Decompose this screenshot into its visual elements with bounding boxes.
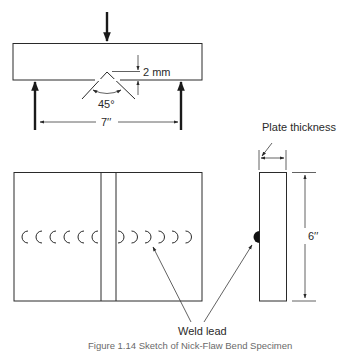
weld-ripple-right <box>145 231 151 243</box>
plate-thickness-label: Plate thickness <box>262 121 336 133</box>
weld-ripple-right <box>186 231 192 243</box>
weld-ripple-left <box>36 231 42 243</box>
weld-ripple-left <box>50 231 56 243</box>
weld-ripple-marks <box>22 231 192 243</box>
notch <box>82 72 135 99</box>
weld-lead-label: Weld lead <box>178 325 227 337</box>
notch-depth-label: 2 mm <box>143 66 171 78</box>
weld-leader-left <box>153 247 191 322</box>
beam-view: 45° 2 mm 7′′ <box>13 12 202 130</box>
figure-caption: Figure 1.14 Sketch of Nick-Flaw Bend Spe… <box>88 340 292 351</box>
weld-ripple-right <box>132 231 138 243</box>
weld-ripple-left <box>92 231 98 243</box>
thickness-leader <box>262 143 272 156</box>
weld-ripple-right <box>159 231 165 243</box>
beam-specimen <box>13 44 202 81</box>
angle-arc <box>93 90 121 94</box>
side-view: Plate thickness 6′′ <box>254 121 337 301</box>
height-label: 6′′ <box>308 230 318 242</box>
side-plate <box>260 173 287 302</box>
weld-bead <box>254 231 260 243</box>
weld-ripple-left <box>64 231 70 243</box>
bend-test-diagram: 45° 2 mm 7′′ Plate thickness 6′′ <box>0 0 341 351</box>
plate-outline <box>14 173 202 302</box>
span-label: 7′′ <box>101 116 111 128</box>
weld-ripple-left <box>78 231 84 243</box>
weld-leader-right <box>204 245 252 322</box>
weld-ripple-left <box>22 231 28 243</box>
weld-ripple-right <box>118 231 124 243</box>
plate-view <box>14 173 202 302</box>
weld-ripple-right <box>172 231 178 243</box>
notch-angle-label: 45° <box>98 98 115 110</box>
